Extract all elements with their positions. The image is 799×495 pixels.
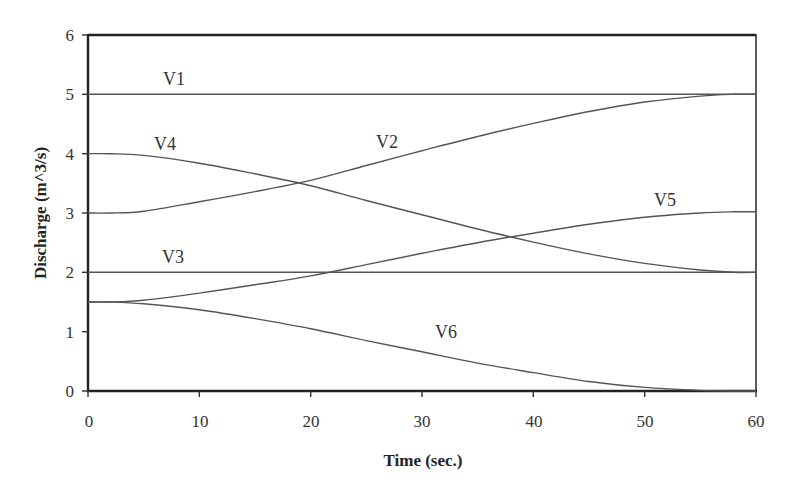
y-axis-tick-labels: 6 5 4 3 2 1 0 bbox=[66, 26, 75, 401]
series-label-v2: V2 bbox=[376, 132, 398, 152]
series-line-v5 bbox=[88, 212, 756, 302]
series-curves bbox=[88, 94, 756, 391]
x-axis-title: Time (sec.) bbox=[384, 451, 463, 470]
plot-area-frame bbox=[88, 35, 756, 391]
y-tick-0: 0 bbox=[66, 382, 75, 401]
x-tick-40: 40 bbox=[526, 412, 543, 431]
y-tick-3: 3 bbox=[66, 204, 75, 223]
y-tick-1: 1 bbox=[66, 323, 75, 342]
x-tick-60: 60 bbox=[748, 412, 765, 431]
y-tick-6: 6 bbox=[66, 26, 75, 45]
series-label-v5: V5 bbox=[654, 190, 676, 210]
discharge-chart: 6 5 4 3 2 1 0 0 10 20 30 40 50 60 Time (… bbox=[0, 0, 799, 495]
series-label-v1: V1 bbox=[163, 69, 185, 89]
y-axis-title: Discharge (m^3/s) bbox=[31, 147, 50, 279]
x-tick-50: 50 bbox=[637, 412, 654, 431]
series-line-v4 bbox=[88, 154, 756, 273]
x-tick-20: 20 bbox=[303, 412, 320, 431]
x-axis-tick-labels: 0 10 20 30 40 50 60 bbox=[85, 412, 765, 431]
y-tick-4: 4 bbox=[66, 145, 75, 164]
y-tick-5: 5 bbox=[66, 85, 75, 104]
series-label-v3: V3 bbox=[162, 247, 184, 267]
series-label-v6: V6 bbox=[435, 322, 457, 342]
series-line-v6 bbox=[88, 302, 756, 391]
x-tick-0: 0 bbox=[85, 412, 94, 431]
x-tick-30: 30 bbox=[414, 412, 431, 431]
y-tick-2: 2 bbox=[66, 263, 75, 282]
x-tick-10: 10 bbox=[192, 412, 209, 431]
series-label-v4: V4 bbox=[154, 134, 176, 154]
